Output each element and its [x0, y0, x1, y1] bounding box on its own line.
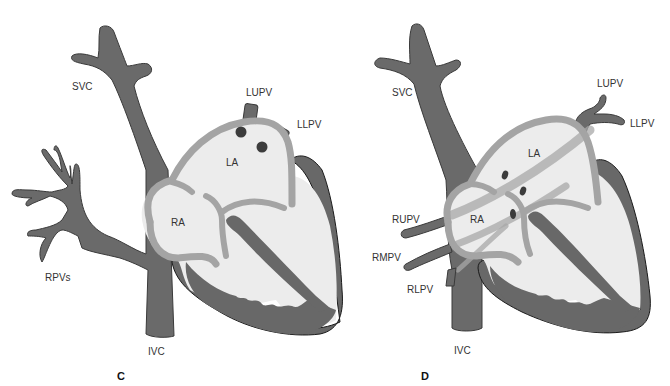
panel-d-label-lupv: LUPV — [597, 78, 623, 89]
panel-c-label-la: LA — [226, 157, 239, 168]
panel-d: SVC LUPV LLPV LA RA RUPV RMPV RLPV IVC D — [372, 24, 655, 382]
panel-c-label-lupv: LUPV — [246, 87, 272, 98]
panel-c-label-svc: SVC — [72, 81, 93, 92]
figure-canvas: SVC LUPV LLPV LA RA RPVs IVC C — [0, 0, 670, 386]
panel-c-label-ra: RA — [171, 217, 185, 228]
panel-d-label-rmpv: RMPV — [372, 252, 401, 263]
panel-c-label-llpv: LLPV — [297, 119, 322, 130]
panel-d-label-ivc: IVC — [454, 345, 471, 356]
panel-d-label-rupv: RUPV — [392, 214, 420, 225]
panel-d-rmpv-vessel — [404, 244, 452, 270]
panel-c-label-ivc: IVC — [148, 346, 165, 357]
panel-d-panel-label: D — [421, 370, 429, 382]
panel-d-label-svc: SVC — [392, 87, 413, 98]
panel-d-label-ra: RA — [470, 214, 484, 225]
panel-d-rlpv-vessel — [446, 268, 456, 286]
panel-c-llpv-ostium — [257, 142, 268, 153]
panel-c-label-rpvs: RPVs — [45, 272, 71, 283]
panel-c-panel-label: C — [117, 370, 125, 382]
panel-c-lupv-ostium — [236, 127, 247, 138]
panel-d-label-llpv: LLPV — [630, 118, 655, 129]
panel-d-label-rlpv: RLPV — [407, 284, 433, 295]
panel-c: SVC LUPV LLPV LA RA RPVs IVC C — [12, 26, 342, 382]
panel-d-label-la: LA — [528, 148, 541, 159]
panel-c-svc-ivc-trunk — [12, 26, 174, 337]
